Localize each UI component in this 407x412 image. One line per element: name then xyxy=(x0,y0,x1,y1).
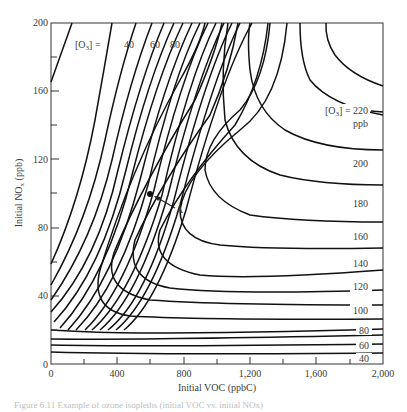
contour-label-140: 140 xyxy=(353,258,368,269)
contour-label-200: 200 xyxy=(353,158,368,169)
y-axis-title: Initial NOx (ppb) xyxy=(13,159,26,228)
point-a-label: A xyxy=(176,204,184,215)
y-tick-labels: 0 40 80 120 160 200 xyxy=(33,17,48,370)
svg-text:800: 800 xyxy=(177,368,192,379)
svg-text:400: 400 xyxy=(110,368,125,379)
contour-label-80: 80 xyxy=(359,325,369,336)
contour-label-160: 160 xyxy=(353,231,368,242)
svg-text:2,000: 2,000 xyxy=(372,368,395,379)
contour-label-80: 80 xyxy=(170,39,180,50)
x-tick-labels: 0 400 800 1,200 1,600 2,000 xyxy=(49,368,395,379)
ppb-unit-label: ppb xyxy=(353,118,368,129)
x-axis-title: Initial VOC (ppbC) xyxy=(178,382,256,394)
point-a-marker xyxy=(147,191,153,197)
svg-text:160: 160 xyxy=(33,85,48,96)
svg-text:120: 120 xyxy=(33,154,48,165)
svg-text:0: 0 xyxy=(49,368,54,379)
right-contour-labels: [O3] = 220 ppb 200 180 160 140 120 100 8… xyxy=(322,104,383,364)
contour-label-100: 100 xyxy=(353,305,368,316)
contour-label-40: 40 xyxy=(124,39,134,50)
svg-text:1,200: 1,200 xyxy=(239,368,262,379)
x-axis xyxy=(84,357,350,364)
svg-text:80: 80 xyxy=(38,222,48,233)
svg-text:200: 200 xyxy=(33,17,48,28)
svg-text:0: 0 xyxy=(43,359,48,370)
contour-label-180: 180 xyxy=(353,198,368,209)
svg-text:1,600: 1,600 xyxy=(305,368,328,379)
contour-label-120: 120 xyxy=(353,281,368,292)
contour-label-60-right: 60 xyxy=(359,340,369,351)
figure-caption: Figure 6.11 Example of ozone isopleths (… xyxy=(14,400,394,412)
ozone-isopleth-chart: A [O3] = 40 60 80 [O3] = 220 ppb 200 180… xyxy=(0,0,407,412)
contour-label-40-right: 40 xyxy=(359,353,369,364)
contour-label-60: 60 xyxy=(150,39,160,50)
contour-lines xyxy=(51,23,383,354)
o3-label-top: [O3] = xyxy=(75,39,101,52)
point-a-annotation: A xyxy=(147,191,184,215)
svg-text:40: 40 xyxy=(38,290,48,301)
